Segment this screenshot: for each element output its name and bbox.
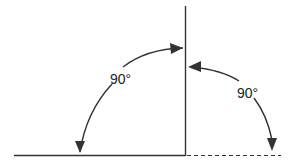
right-angle-arc	[192, 67, 272, 140]
left-angle-arc	[80, 48, 183, 152]
left-angle-label: 90°	[110, 71, 131, 87]
right-angle-label: 90°	[237, 85, 258, 101]
right-arc-arrowhead-bottom-icon	[267, 138, 277, 151]
right-arc-arrowhead-top-icon	[188, 61, 201, 72]
right-angle-diagram: 90° 90°	[0, 0, 293, 168]
left-arc-arrowhead-bottom-icon	[75, 141, 85, 153]
left-arc-arrowhead-top-icon	[170, 43, 183, 54]
